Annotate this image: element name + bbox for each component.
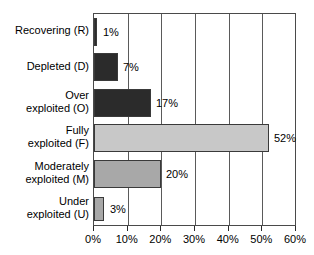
- category-label-text: Recovering (R): [15, 24, 89, 37]
- category-label-text: Under exploited (U): [27, 195, 89, 221]
- bar-chart: Recovering (R) Depleted (D) Over exploit…: [0, 0, 314, 255]
- axis-tick-0: [93, 226, 94, 231]
- bar-value-depleted: 7%: [123, 61, 139, 73]
- bar-row-depleted: 7%: [94, 50, 295, 86]
- axis-tick-10: [127, 226, 128, 231]
- category-label-4: Moderately exploited (M): [0, 155, 89, 191]
- bar-over-exploited[interactable]: [94, 89, 151, 117]
- bar-fully-exploited[interactable]: [94, 124, 269, 152]
- axis-label-60: 60%: [284, 233, 306, 246]
- category-label-5: Under exploited (U): [0, 191, 89, 227]
- category-label-text: Moderately exploited (M): [25, 160, 89, 186]
- bar-row-moderately-exploited: 20%: [94, 156, 295, 192]
- axis-tick-50: [261, 226, 262, 231]
- category-label-1: Depleted (D): [0, 49, 89, 85]
- bar-depleted[interactable]: [94, 53, 118, 81]
- category-label-0: Recovering (R): [0, 13, 89, 49]
- bar-row-under-exploited: 3%: [94, 192, 295, 228]
- axis-label-0: 0%: [85, 233, 101, 246]
- category-label-3: Fully exploited (F): [0, 120, 89, 156]
- axis-label-10: 10%: [116, 233, 138, 246]
- category-label-text: Over exploited (O): [26, 89, 89, 115]
- bar-recovering[interactable]: [94, 18, 97, 46]
- axis-label-20: 20%: [149, 233, 171, 246]
- axis-label-40: 40%: [217, 233, 239, 246]
- bar-value-fully-exploited: 52%: [274, 132, 296, 144]
- bar-moderately-exploited[interactable]: [94, 160, 161, 188]
- axis-label-30: 30%: [183, 233, 205, 246]
- bar-row-fully-exploited: 52%: [94, 121, 295, 157]
- category-label-text: Depleted (D): [27, 60, 89, 73]
- bar-value-under-exploited: 3%: [110, 203, 126, 215]
- category-label-2: Over exploited (O): [0, 84, 89, 120]
- bar-value-moderately-exploited: 20%: [166, 168, 188, 180]
- axis-tick-20: [160, 226, 161, 231]
- bar-value-over-exploited: 17%: [156, 97, 178, 109]
- bar-value-recovering: 1%: [103, 26, 119, 38]
- plot-area: 1% 7% 17% 52% 20% 3%: [93, 13, 296, 226]
- category-label-text: Fully exploited (F): [28, 124, 89, 150]
- bar-row-over-exploited: 17%: [94, 85, 295, 121]
- bar-row-recovering: 1%: [94, 14, 295, 50]
- bar-under-exploited[interactable]: [94, 197, 104, 221]
- axis-tick-60: [295, 226, 296, 231]
- axis-tick-40: [228, 226, 229, 231]
- axis-label-50: 50%: [250, 233, 272, 246]
- axis-tick-30: [194, 226, 195, 231]
